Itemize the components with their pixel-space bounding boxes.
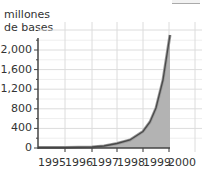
y-tick-label: 0 [0, 142, 32, 154]
area-fill [38, 35, 170, 148]
x-tick-label: 1996 [65, 157, 93, 169]
x-tick-label: 1999 [143, 157, 171, 169]
x-tick-label: 2000 [168, 157, 196, 169]
y-tick-label: 400 [0, 122, 32, 134]
x-tick-label: 1995 [38, 157, 66, 169]
y-tick-label: 1,600 [0, 64, 32, 76]
x-tick-label: 1998 [117, 157, 145, 169]
vertical-grid [65, 22, 195, 152]
y-tick-label: 1,200 [0, 83, 32, 95]
x-tick-label: 1997 [91, 157, 119, 169]
y-tick-label: 2,000 [0, 44, 32, 56]
y-tick-label: 800 [0, 103, 32, 115]
